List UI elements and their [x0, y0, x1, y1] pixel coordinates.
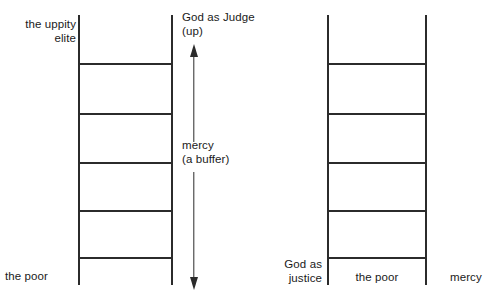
arrow-shaft-upper	[193, 54, 194, 142]
right-ladder-rung-3	[327, 162, 427, 164]
left-ladder-bottom-label: the poor	[5, 270, 75, 284]
mercy-buffer-label: mercy (a buffer)	[182, 139, 272, 166]
left-ladder-rung-5	[78, 257, 173, 259]
right-ladder-right-rail	[425, 15, 427, 285]
god-as-judge-label: God as Judge (up)	[182, 11, 272, 38]
right-ladder-rung-2	[327, 113, 427, 115]
right-ladder	[327, 15, 427, 285]
diagram-canvas: the uppity elite the poor God as Judge (…	[0, 0, 498, 300]
god-as-justice-label: God as justice	[255, 258, 322, 285]
left-ladder-top-label: the uppity elite	[6, 18, 76, 45]
left-ladder	[78, 15, 173, 285]
right-ladder-rung-1	[327, 63, 427, 65]
left-ladder-left-rail	[78, 15, 80, 285]
arrow-shaft-lower	[193, 172, 194, 278]
left-ladder-rung-4	[78, 210, 173, 212]
right-ladder-rung-4	[327, 210, 427, 212]
right-ladder-bottom-center-label: the poor	[329, 271, 425, 285]
left-ladder-rung-2	[78, 113, 173, 115]
arrow-head-down-icon	[190, 277, 198, 290]
right-ladder-rung-5	[327, 257, 427, 259]
double-headed-arrow-icon	[185, 44, 203, 290]
left-ladder-rung-1	[78, 63, 173, 65]
left-ladder-right-rail	[171, 15, 173, 285]
right-ladder-left-rail	[327, 15, 329, 285]
mercy-label: mercy	[450, 271, 496, 285]
left-ladder-rung-3	[78, 162, 173, 164]
